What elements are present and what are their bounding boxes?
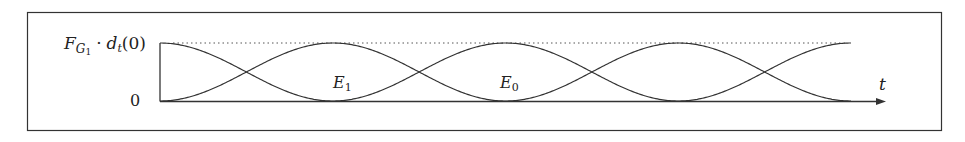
annotation-E1-sub: 1 xyxy=(345,81,352,94)
curve-falling-first xyxy=(160,43,851,101)
y-label-max: FG1·dt(0) xyxy=(63,33,146,57)
label-d: d xyxy=(107,33,118,53)
annotation-E0: E0 xyxy=(499,73,519,94)
label-1-subsub: 1 xyxy=(85,47,91,57)
annotation-E1-main: E xyxy=(332,73,345,92)
annotation-E0-main: E xyxy=(499,73,512,92)
label-G-sub: G xyxy=(76,42,86,56)
frame-border xyxy=(28,13,942,131)
label-paren-zero: (0) xyxy=(122,33,146,53)
time-axis-arrow-icon xyxy=(876,98,886,105)
annotation-E0-sub: 0 xyxy=(512,81,519,94)
annotation-E1: E1 xyxy=(332,73,352,94)
oscillation-diagram: FG1·dt(0) 0 t E1 E0 xyxy=(0,0,965,142)
diagram-canvas: FG1·dt(0) 0 t E1 E0 xyxy=(0,0,965,142)
x-axis-label-t: t xyxy=(879,74,886,94)
y-label-zero: 0 xyxy=(130,91,140,110)
curve-rising-first xyxy=(160,43,851,101)
label-cdot: · xyxy=(96,33,101,53)
